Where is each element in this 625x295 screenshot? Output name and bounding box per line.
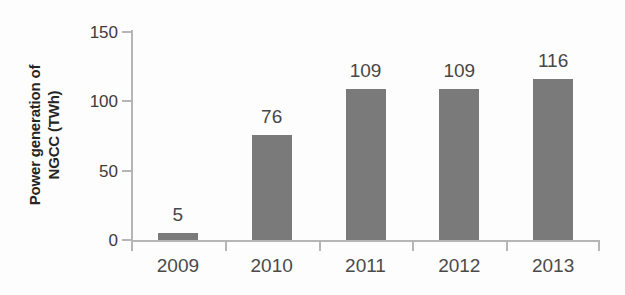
x-axis-label-2011: 2011 bbox=[321, 255, 411, 277]
x-axis-line bbox=[131, 240, 600, 242]
bar-value-label: 109 bbox=[419, 61, 499, 80]
x-axis-label-2012: 2012 bbox=[414, 255, 504, 277]
x-tick-mark bbox=[506, 242, 508, 251]
x-axis-label-2013: 2013 bbox=[508, 255, 598, 277]
x-tick-mark bbox=[412, 242, 414, 251]
bar-2009[interactable] bbox=[158, 233, 198, 240]
bar-chart: Power generation of NGCC (TWh) 050100150… bbox=[0, 0, 625, 295]
y-tick-label: 50 bbox=[0, 162, 118, 182]
y-tick-mark bbox=[122, 239, 131, 241]
bar-2013[interactable] bbox=[533, 79, 573, 240]
x-tick-mark bbox=[225, 242, 227, 251]
y-tick-mark bbox=[122, 31, 131, 33]
y-tick-mark bbox=[122, 170, 131, 172]
bar-2010[interactable] bbox=[252, 135, 292, 240]
bar-2012[interactable] bbox=[439, 89, 479, 240]
y-tick-label: 100 bbox=[0, 92, 118, 112]
y-tick-mark bbox=[122, 100, 131, 102]
y-axis-title: Power generation of NGCC (TWh) bbox=[22, 25, 66, 245]
bar-2011[interactable] bbox=[346, 89, 386, 240]
x-tick-mark bbox=[598, 242, 600, 251]
x-tick-mark bbox=[319, 242, 321, 251]
bar-value-label: 76 bbox=[232, 107, 312, 126]
y-tick-label: 0 bbox=[0, 231, 118, 251]
bar-value-label: 5 bbox=[138, 205, 218, 224]
y-axis-title-line-1: Power generation of bbox=[25, 65, 44, 205]
bar-value-label: 116 bbox=[513, 51, 593, 70]
bar-value-label: 109 bbox=[326, 61, 406, 80]
x-tick-mark bbox=[131, 242, 133, 251]
x-axis-label-2009: 2009 bbox=[133, 255, 223, 277]
y-tick-label: 150 bbox=[0, 23, 118, 43]
x-axis-label-2010: 2010 bbox=[227, 255, 317, 277]
